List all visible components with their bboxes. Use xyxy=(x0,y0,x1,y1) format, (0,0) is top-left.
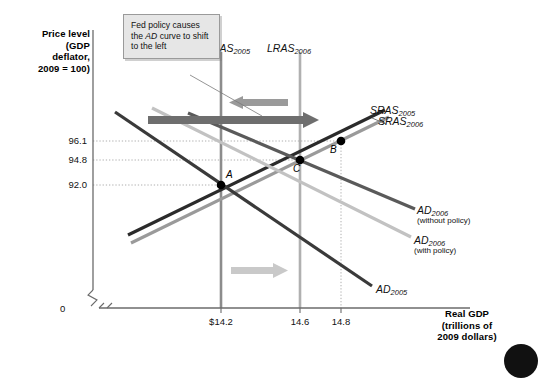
ad-2006-with-policy-curve xyxy=(152,108,411,237)
sras-2006-label-text: SRAS xyxy=(378,115,407,127)
point-b-dot xyxy=(337,137,346,146)
y-axis-title: Price level (GDP deflator, 2009 = 100) xyxy=(18,28,90,74)
potential-gdp-arrow xyxy=(231,263,288,278)
ad-2006-without-policy-label: AD2006 xyxy=(417,204,448,216)
y-axis-title-line-2: (GDP xyxy=(18,40,90,52)
sras-2005-curve xyxy=(128,110,385,235)
x-axis-title: Real GDP (trillions of 2009 dollars) xyxy=(415,308,519,343)
origin-label: 0 xyxy=(60,303,65,314)
sras-2006-label: SRAS2006 xyxy=(378,115,423,127)
callout-box: Fed policy causes the AD curve to shift … xyxy=(123,14,220,59)
page-corner-dot xyxy=(504,344,538,378)
x-axis-title-line-3: 2009 dollars) xyxy=(415,331,519,343)
y-axis-title-line-3: deflator, xyxy=(18,51,90,63)
x-tick-marks xyxy=(221,308,341,313)
y-tick-92-0: 92.0 xyxy=(41,179,87,190)
y-tick-96-1: 96.1 xyxy=(41,135,87,146)
y-tick-94-8: 94.8 xyxy=(41,154,87,165)
callout-emphasis-ad: AD xyxy=(145,31,157,41)
point-a-dot xyxy=(217,181,226,190)
ad-2006-with-policy-label: AD2006 xyxy=(414,234,445,246)
x-axis-title-line-1: Real GDP xyxy=(415,308,519,320)
x-tick-14-8: 14.8 xyxy=(315,316,367,327)
guide-lines xyxy=(93,141,341,308)
lras-2006-label-text: LRAS xyxy=(267,42,294,54)
ad-2005-label-sub: 2005 xyxy=(391,288,408,297)
ad-2006-without-policy-label-text: AD xyxy=(417,204,432,216)
x-tick-14-2: $14.2 xyxy=(195,316,247,327)
x-axis-title-line-2: (trillions of xyxy=(415,320,519,332)
y-axis-title-line-1: Price level xyxy=(18,28,90,40)
ad-2006-with-policy-label-text: AD xyxy=(414,234,429,246)
callout-leader-line xyxy=(190,75,262,116)
lras-2005-label-sub: 2005 xyxy=(233,47,250,56)
ad-2006-without-policy-note: (without policy) xyxy=(417,216,470,225)
sras-2006-label-sub: 2006 xyxy=(407,120,424,129)
point-a-label: A xyxy=(226,169,233,180)
lras-2006-label-sub: 2006 xyxy=(294,47,311,56)
ad-2005-label: AD2005 xyxy=(376,283,407,295)
lras-2006-label: LRAS2006 xyxy=(267,42,311,54)
point-c-label: C xyxy=(293,163,300,174)
point-b-label: B xyxy=(330,144,337,155)
lras-shift-right-arrow xyxy=(148,112,319,128)
ad-2006-with-policy-note: (with policy) xyxy=(414,246,456,255)
ad-2005-label-text: AD xyxy=(376,283,391,295)
axis-break-marks xyxy=(88,290,112,308)
y-axis-title-line-4: 2009 = 100) xyxy=(18,63,90,75)
